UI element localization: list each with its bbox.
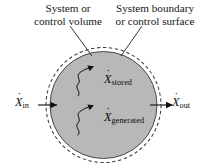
callout-system-boundary: System boundary or control surface [107, 2, 203, 27]
energy-balance-diagram: System or control volume System boundary… [0, 0, 203, 168]
outlet-dot-accent: ˙ [174, 91, 178, 103]
generated-dot-accent: ˙ [106, 106, 110, 118]
callout-control-volume-line1: System or [28, 2, 108, 15]
callout-control-volume: System or control volume [28, 2, 108, 27]
generated-subscript: generated [111, 116, 144, 125]
inlet-flow-label: ˙Xin [15, 95, 29, 110]
stored-symbol: ˙X [104, 72, 111, 86]
generated-term-label: ˙Xgenerated [104, 110, 144, 125]
generated-symbol: ˙X [104, 110, 111, 124]
stored-term-label: ˙Xstored [104, 72, 132, 87]
outlet-subscript: out [179, 101, 190, 110]
callout-system-boundary-line1: System boundary [107, 2, 203, 15]
leader-line-right [121, 26, 142, 56]
callout-system-boundary-line2: or control surface [107, 15, 203, 28]
stored-subscript: stored [111, 78, 132, 87]
inlet-symbol: ˙X [15, 95, 22, 109]
control-volume-body [50, 52, 157, 159]
stored-dot-accent: ˙ [106, 68, 110, 80]
leader-line-left [70, 26, 92, 56]
callout-control-volume-line2: control volume [28, 15, 108, 28]
outlet-symbol: ˙X [172, 95, 179, 109]
inlet-subscript: in [22, 101, 29, 110]
outlet-flow-label: ˙Xout [172, 95, 190, 110]
inlet-dot-accent: ˙ [17, 91, 21, 103]
